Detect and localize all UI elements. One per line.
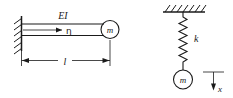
figure-canvas: EI η m l bbox=[0, 0, 233, 98]
label-flexural-rigidity: EI bbox=[57, 10, 68, 21]
label-displacement-eta: η bbox=[66, 26, 72, 36]
label-tip-mass: m bbox=[107, 25, 114, 35]
spring-mass-group: k m x bbox=[163, 5, 224, 94]
wall-hatching bbox=[14, 19, 22, 55]
label-coordinate-x: x bbox=[217, 84, 222, 94]
mechanics-figure: EI η m l bbox=[0, 0, 233, 98]
cantilever-beam-group: EI η m l bbox=[14, 10, 119, 67]
label-spring-constant: k bbox=[194, 33, 199, 44]
ceiling-hatching bbox=[165, 5, 206, 12]
label-beam-length: l bbox=[64, 56, 67, 67]
axis-arrowhead bbox=[211, 84, 216, 91]
displacement-arrow bbox=[23, 28, 62, 33]
label-hanging-mass: m bbox=[180, 75, 187, 85]
spring-coil bbox=[179, 12, 187, 70]
